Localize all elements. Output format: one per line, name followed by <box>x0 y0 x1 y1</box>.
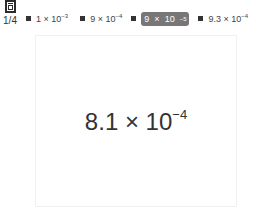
option-text: 9.3 × 10−4 <box>208 13 248 24</box>
square-bullet-icon <box>26 16 31 21</box>
card-value: 8.1 × 10−4 <box>85 107 187 136</box>
page-counter: 1/4 <box>3 15 17 26</box>
answer-options: 1 × 10−3 9 × 10−4 9 × 10−5 9.3 × 10−4 <box>23 11 251 26</box>
flashcard[interactable]: 8.1 × 10−4 <box>35 35 237 207</box>
option-text-selected: 9 × 10−5 <box>141 12 189 26</box>
option-1[interactable]: 1 × 10−3 <box>23 11 71 26</box>
square-bullet-icon <box>198 16 203 21</box>
pager: 1/4 <box>2 0 18 26</box>
option-text: 9 × 10−4 <box>90 13 122 24</box>
option-3[interactable]: 9 × 10−5 <box>131 12 189 26</box>
square-bullet-icon <box>131 16 136 21</box>
card-stack-icon[interactable] <box>5 0 16 13</box>
square-bullet-icon <box>80 16 85 21</box>
option-2[interactable]: 9 × 10−4 <box>77 11 125 26</box>
option-4[interactable]: 9.3 × 10−4 <box>195 11 251 26</box>
option-text: 1 × 10−3 <box>36 13 68 24</box>
